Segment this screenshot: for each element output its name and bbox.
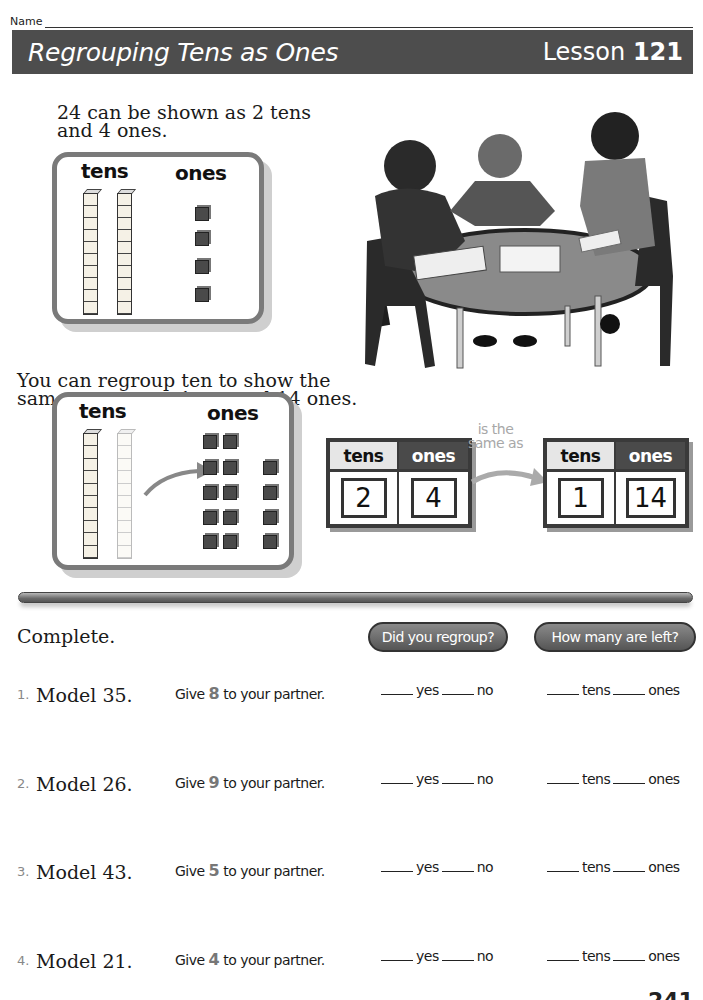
left-answer: tensones [544,948,680,964]
ones-cube-icon [203,511,217,525]
yes-label: yes [416,859,439,875]
tens-blank[interactable] [547,960,579,961]
intro-text-1: 24 can be shown as 2 tens and 4 ones. [57,103,317,139]
ones-cube-icon [263,486,277,500]
ones-cube-icon [203,435,217,449]
connector-line-1: is the [468,422,523,436]
no-label: no [477,948,493,964]
give-suffix: to your partner. [223,952,325,968]
give-suffix: to your partner. [223,863,325,879]
yes-blank[interactable] [381,871,413,872]
pv-tens-value: 2 [341,478,387,518]
ones-blank[interactable] [613,871,645,872]
title-bar: Regrouping Tens as Ones Lesson 121 [12,30,693,74]
give-number: 5 [209,861,220,880]
regroup-answer: yesno [378,771,493,787]
how-many-left-pill: How many are left? [534,622,696,652]
exercise-row: 4. Model 21. Give 4 to your partner. yes… [17,942,697,972]
ones-cube-icon [223,535,237,549]
pv-ones-header: ones [399,442,468,472]
ones-blank[interactable] [613,694,645,695]
ones-cube-icon [223,511,237,525]
exercise-number: 2. [17,776,29,791]
pv-tens-header: tens [547,442,616,472]
no-blank[interactable] [442,783,474,784]
exercise-model: Model 21. [36,950,133,972]
same-as-arrow-icon [470,458,550,488]
ones-cube-icon [263,461,277,475]
give-prefix: Give [175,686,205,702]
no-label: no [477,682,493,698]
ones-label: ones [648,859,679,875]
give-prefix: Give [175,863,205,879]
give-suffix: to your partner. [223,686,325,702]
ones-label: ones [175,161,226,185]
exercise-give: Give 4 to your partner. [175,950,325,969]
faded-tens-rod-icon [117,433,132,559]
section-divider [18,592,693,603]
pv-tens-value: 1 [558,478,604,518]
yes-label: yes [416,948,439,964]
pv-ones-value: 4 [411,478,457,518]
exercise-row: 3. Model 43. Give 5 to your partner. yes… [17,853,697,883]
tens-blank[interactable] [547,871,579,872]
no-label: no [477,859,493,875]
ones-cube-icon [223,486,237,500]
page-title: Regrouping Tens as Ones [28,38,338,67]
exercise-model: Model 43. [36,861,133,883]
yes-blank[interactable] [381,783,413,784]
pv-ones-header: ones [616,442,685,472]
ones-label: ones [648,771,679,787]
left-answer: tensones [544,859,680,875]
ones-cube-icon [223,435,237,449]
ones-label: ones [648,948,679,964]
give-prefix: Give [175,775,205,791]
yes-label: yes [416,771,439,787]
give-suffix: to your partner. [223,775,325,791]
tens-rod-icon [83,433,98,559]
yes-label: yes [416,682,439,698]
give-prefix: Give [175,952,205,968]
ones-cube-icon [203,535,217,549]
tens-blank[interactable] [547,783,579,784]
name-input-line[interactable] [45,18,693,28]
no-blank[interactable] [442,694,474,695]
no-blank[interactable] [442,871,474,872]
ones-label: ones [648,682,679,698]
tens-label: tens [582,682,610,698]
exercise-row: 2. Model 26. Give 9 to your partner. yes… [17,765,697,795]
ones-cube-icon [195,232,209,246]
children-photo [355,96,695,372]
exercise-row: 1. Model 35. Give 8 to your partner. yes… [17,676,697,706]
ones-blank[interactable] [613,783,645,784]
tens-blank[interactable] [547,694,579,695]
no-blank[interactable] [442,960,474,961]
did-you-regroup-pill: Did you regroup? [368,622,508,652]
base-ten-model-regrouped: tens ones [52,392,294,570]
ones-cube-icon [195,260,209,274]
regroup-answer: yesno [378,948,493,964]
practice-heading: Complete. [17,625,115,647]
place-value-chart-left: tens ones 2 4 [326,438,472,528]
tens-rod-icon [117,193,132,315]
lesson-prefix: Lesson [543,38,626,66]
tens-label: tens [582,948,610,964]
name-row: Name [10,12,693,28]
regroup-answer: yesno [378,682,493,698]
exercise-number: 3. [17,864,29,879]
ones-cube-icon [195,288,209,302]
ones-blank[interactable] [613,960,645,961]
lesson-label: Lesson 121 [543,38,683,66]
name-label: Name [10,15,42,28]
same-as-connector: is the same as [468,422,523,450]
tens-label: tens [79,399,126,423]
yes-blank[interactable] [381,960,413,961]
left-answer: tensones [544,771,680,787]
tens-label: tens [81,159,128,183]
ones-cube-icon [263,535,277,549]
yes-blank[interactable] [381,694,413,695]
ones-cube-icon [203,461,217,475]
ones-cube-icon [203,486,217,500]
give-number: 4 [209,950,220,969]
give-number: 9 [209,773,220,792]
